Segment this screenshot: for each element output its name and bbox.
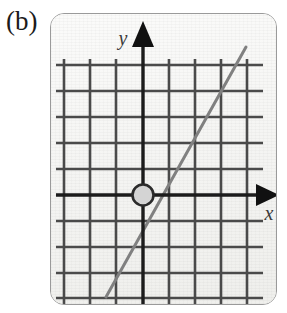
panel-label: (b) bbox=[6, 8, 37, 35]
grid-lines-horizontal bbox=[56, 65, 263, 298]
origin-point-marker bbox=[133, 185, 154, 206]
y-axis-label: y bbox=[117, 27, 128, 50]
plot-line bbox=[106, 47, 246, 297]
y-axis-arrowhead-icon bbox=[132, 21, 154, 47]
x-axis-label: x bbox=[264, 202, 274, 224]
figure-panel-b: (b) bbox=[0, 0, 287, 313]
plot-card: y x bbox=[50, 13, 277, 305]
coordinate-plot: y x bbox=[50, 13, 277, 305]
